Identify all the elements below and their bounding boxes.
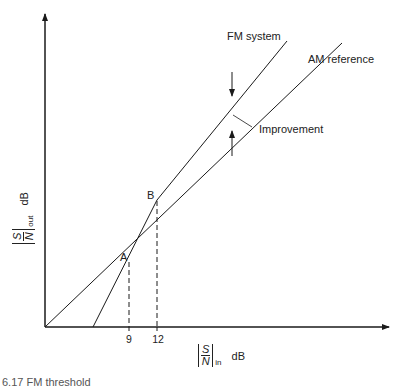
point-b-label: B bbox=[147, 189, 154, 201]
x-axis-label: S N in dB bbox=[198, 344, 245, 367]
x-tick-12: 12 bbox=[152, 333, 164, 345]
point-a-label: A bbox=[120, 251, 127, 263]
figure-caption: 6.17 FM threshold bbox=[2, 376, 91, 388]
fm-system-line bbox=[93, 41, 287, 327]
improvement-label: Improvement bbox=[259, 123, 323, 135]
improvement-leader bbox=[233, 115, 252, 127]
am-reference-label: AM reference bbox=[308, 53, 374, 65]
x-tick-9: 9 bbox=[126, 333, 132, 345]
fm-system-label: FM system bbox=[227, 30, 281, 42]
y-axis-label: S N out dB bbox=[12, 192, 35, 244]
am-reference-line bbox=[45, 43, 342, 327]
